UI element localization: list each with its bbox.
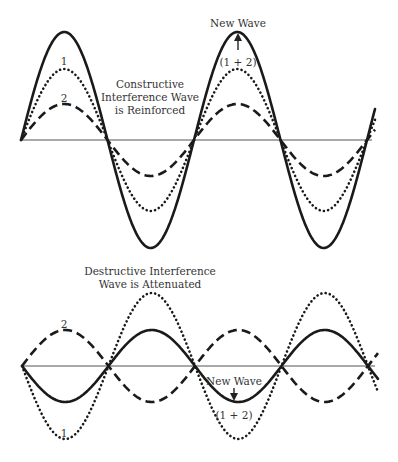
destructive-wave-1-label: 1 xyxy=(61,427,68,439)
destructive-new-wave-label: New Wave xyxy=(206,375,262,387)
constructive-sum-label: (1 + 2) xyxy=(219,56,256,68)
constructive-interference-panel: 1 2 Constructive Interference Wave is Re… xyxy=(21,17,375,248)
constructive-new-wave-label: New Wave xyxy=(210,17,266,29)
wave-interference-diagram: 1 2 Constructive Interference Wave is Re… xyxy=(0,0,398,462)
down-arrow-icon xyxy=(230,388,238,401)
constructive-caption-line-1: Constructive xyxy=(116,78,184,90)
constructive-wave-2-label: 2 xyxy=(61,92,68,104)
destructive-caption-line-1: Destructive Interference xyxy=(84,265,216,277)
destructive-interference-panel: Destructive Interference Wave is Attenua… xyxy=(22,265,378,439)
destructive-caption-line-2: Wave is Attenuated xyxy=(99,278,202,290)
constructive-caption-line-2: Interference Wave xyxy=(101,91,199,103)
destructive-sum-label: (1 + 2) xyxy=(215,409,252,421)
destructive-wave-2-label: 2 xyxy=(61,318,68,330)
constructive-wave-1-label: 1 xyxy=(61,55,68,67)
up-arrow-icon xyxy=(234,33,242,50)
constructive-caption-line-3: is Reinforced xyxy=(115,104,186,116)
